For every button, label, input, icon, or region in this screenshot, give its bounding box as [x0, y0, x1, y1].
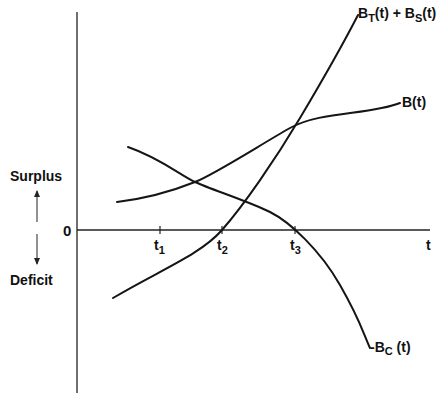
surplus-deficit-diagram: Surplus 0 Deficit t1 t2 t3 t BT(t) + BS(… — [0, 0, 443, 403]
label-b: B(t) — [402, 94, 426, 110]
label-bt-plus-bs: BT(t) + BS(t) — [358, 5, 436, 24]
up-down-arrow-icon — [34, 190, 40, 265]
deficit-label: Deficit — [10, 272, 53, 288]
origin-label: 0 — [63, 222, 71, 239]
tick-label-t2: t2 — [217, 237, 228, 256]
surplus-label: Surplus — [10, 168, 62, 184]
x-axis-label: t — [426, 237, 431, 253]
curve-b — [117, 103, 400, 202]
tick-label-t1: t1 — [154, 237, 165, 256]
tick-label-t3: t3 — [290, 237, 301, 256]
label-minus-bc: -BC (t) — [370, 339, 411, 357]
